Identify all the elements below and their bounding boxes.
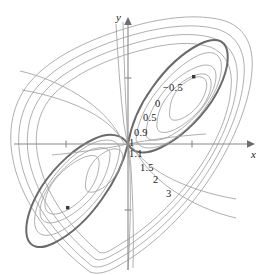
- maximum-marker-upper-right: [192, 75, 195, 78]
- contour-label-1.5: 1.5: [140, 163, 154, 174]
- contour-level-1-lower-lobe: [26, 135, 128, 247]
- contour-plot-figure: −0.5 0 0.5 0.9 1 1.1 1.5 2 3 y x: [0, 0, 263, 275]
- y-axis-label: y: [116, 12, 121, 23]
- contour-label-1: 1: [129, 138, 134, 149]
- contour-label-0.5: 0.5: [143, 113, 157, 124]
- contour-label-0.9: 0.9: [134, 128, 148, 139]
- contour-level-0.9-upper: [136, 53, 221, 148]
- x-axis-arrowhead: [247, 140, 255, 148]
- contour-label-2: 2: [153, 175, 158, 186]
- saddle-branch-lower-right-2: [134, 149, 236, 218]
- contour-label-3: 3: [166, 189, 171, 200]
- x-axis-label: x: [251, 149, 256, 160]
- y-axis-arrowhead: [124, 17, 132, 25]
- contour-label-1.1: 1.1: [129, 149, 143, 160]
- saddle-arm-horizontal-lower: [52, 144, 128, 155]
- axes-group: [14, 17, 255, 270]
- maximum-marker-lower-left: [66, 206, 69, 209]
- contour-level-0.9-lower: [35, 140, 120, 235]
- contour-label-minus-0.5: −0.5: [163, 83, 183, 94]
- contour-label-0: 0: [155, 99, 160, 110]
